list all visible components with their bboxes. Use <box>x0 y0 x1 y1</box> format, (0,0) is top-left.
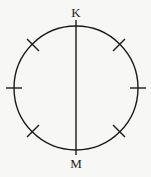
circle-diagram: K M <box>0 0 151 177</box>
tick-mark-lower-left <box>27 125 39 137</box>
label-m: M <box>70 156 82 171</box>
label-k: K <box>71 5 81 20</box>
tick-mark-lower-right <box>113 125 125 137</box>
tick-mark-upper-right <box>113 39 125 51</box>
tick-mark-upper-left <box>27 39 39 51</box>
